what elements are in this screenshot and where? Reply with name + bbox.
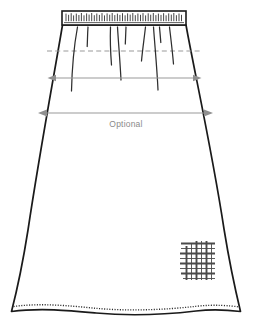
optional-dimension-label: Optional <box>109 119 142 129</box>
skirt-technical-flat-illustration: Optional <box>0 0 256 333</box>
hip-arrow-left-icon <box>48 75 57 81</box>
gather-line <box>125 27 126 44</box>
gathered-waistband-group <box>62 11 186 25</box>
optional-arrow-left-icon <box>38 110 47 117</box>
gather-line <box>87 27 88 47</box>
optional-arrow-right-icon <box>204 110 213 117</box>
skirt-flat-drawing: Optional <box>0 0 256 333</box>
